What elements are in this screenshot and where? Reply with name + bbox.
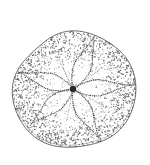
apical-disc-core: [70, 86, 76, 92]
apical-disc-speck: [75, 92, 76, 93]
apical-disc-speck: [74, 92, 75, 93]
apical-disc-speck: [76, 85, 77, 86]
illustration-canvas: Echinoid test, aboral view: [0, 0, 150, 165]
echinoid-test-illustration: [0, 0, 150, 165]
apical-disc-speck: [73, 85, 74, 86]
apical-disc-speck: [75, 85, 76, 86]
apical-disc-speck: [76, 90, 77, 91]
apical-disc-speck: [76, 92, 77, 93]
apical-disc-speck: [72, 85, 73, 86]
apical-disc-speck: [73, 84, 74, 85]
apical-disc-speck: [72, 83, 73, 84]
apical-disc-speck: [78, 89, 79, 90]
apical-disc-speck: [77, 87, 78, 88]
apical-disc-speck: [68, 89, 69, 90]
